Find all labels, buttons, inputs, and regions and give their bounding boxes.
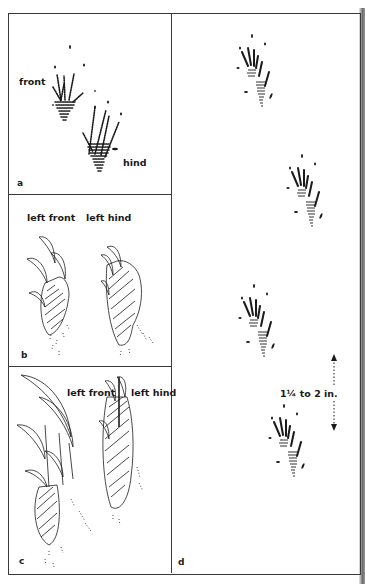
track-set-3	[238, 284, 275, 356]
panel-letter-c: c	[19, 556, 24, 566]
label-left-front: left front	[27, 212, 75, 223]
panel-a: front hind a	[9, 14, 172, 195]
footprints-illustration	[9, 14, 172, 195]
panel-letter-a: a	[17, 178, 23, 188]
track-trail-illustration	[172, 14, 359, 573]
label-front: front	[19, 76, 46, 87]
panel-b: left front left hind b	[9, 195, 172, 367]
label-left-front: left front	[67, 387, 115, 398]
label-hind: hind	[123, 157, 147, 168]
panel-d: 1¼ to 2 in. d	[172, 14, 359, 573]
panel-c: left front left hind c	[9, 367, 172, 573]
track-figure: front hind a	[8, 13, 361, 575]
label-left-hind: left hind	[131, 387, 176, 398]
panel-letter-b: b	[21, 350, 27, 360]
track-set-4	[268, 404, 305, 476]
measurement-label: 1¼ to 2 in.	[280, 388, 338, 399]
track-set-2	[286, 154, 323, 226]
label-left-hind: left hind	[86, 212, 131, 223]
panel-letter-d: d	[178, 557, 184, 567]
track-set-1	[236, 34, 273, 106]
